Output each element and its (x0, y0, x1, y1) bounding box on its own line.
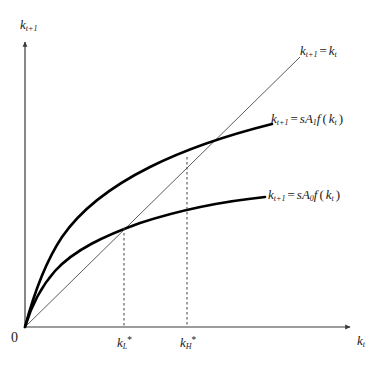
upper-label-rhs-prefix: sA (300, 111, 313, 126)
x-axis-label-subscript: t (363, 340, 365, 349)
diagonal-label-rhs-sub: t (335, 50, 337, 59)
y-axis-label-subscript: t+1 (26, 24, 38, 33)
curve-high-technology (25, 124, 272, 327)
lower-label-rhs-prefix: sA (297, 187, 310, 202)
high-technology-curve-label: kt+1=sA1f(kt) (271, 112, 345, 127)
lower-label-paren-open: ( (317, 187, 325, 202)
upper-label-paren-close: ) (337, 111, 345, 126)
origin-label: 0 (11, 330, 18, 346)
lower-label-paren-close: ) (334, 187, 342, 202)
tick-high-sup: * (192, 335, 197, 345)
lower-label-operator: = (285, 187, 296, 202)
solow-model-diagram: kt+1 kt 0 kt+1=kt kt+1=sA1f(kt) kt+1=sA0… (0, 0, 382, 365)
diagonal-45-line (25, 57, 300, 327)
upper-label-operator: = (288, 111, 299, 126)
diagonal-line-label: kt+1=kt (300, 44, 337, 59)
y-axis-label: kt+1 (20, 18, 37, 33)
upper-label-lhs-sub: t+1 (277, 118, 289, 127)
tick-low-sup: * (127, 335, 132, 345)
lower-label-lhs-sub: t+1 (274, 194, 286, 203)
curve-low-technology (25, 197, 265, 327)
tick-label-low-steady-state: kL* (117, 336, 132, 351)
x-axis-label: kt (357, 334, 365, 349)
tick-label-high-steady-state: kH* (180, 336, 196, 351)
diagonal-label-lhs-sub: t+1 (306, 50, 318, 59)
diagonal-label-operator: = (317, 43, 328, 58)
upper-label-paren-open: ( (320, 111, 328, 126)
low-technology-curve-label: kt+1=sA0f(kt) (268, 188, 342, 203)
